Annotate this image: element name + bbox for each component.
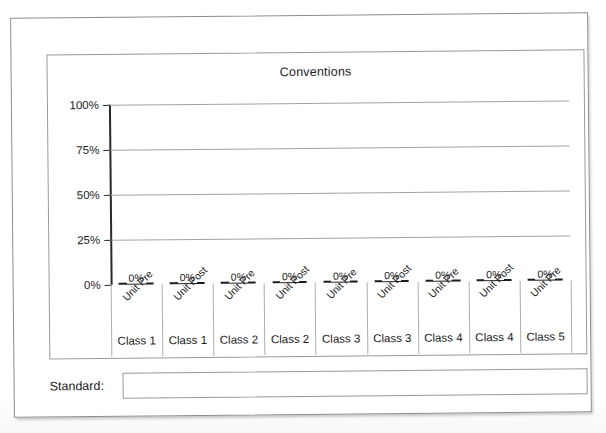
bar-series: 0%0%0%0%0%0%0%0%0% — [109, 100, 571, 284]
category-divider — [417, 282, 419, 354]
class-axis-label: Class 1 — [117, 334, 155, 346]
y-axis-label: 0% — [84, 279, 101, 291]
category-divider — [111, 285, 113, 357]
class-axis-label: Class 3 — [322, 332, 360, 344]
category-divider — [520, 281, 522, 353]
class-axis-label: Class 2 — [271, 333, 309, 345]
category-divider — [366, 282, 368, 354]
category-divider — [468, 281, 470, 353]
y-axis-label: 25% — [77, 234, 100, 246]
category-divider — [571, 280, 573, 352]
category-divider — [213, 284, 215, 356]
class-axis-label: Class 1 — [169, 334, 207, 346]
y-axis-label: 50% — [77, 189, 100, 201]
class-axis-label: Class 5 — [526, 330, 564, 342]
category-divider — [162, 284, 164, 356]
category-divider — [315, 283, 317, 355]
standard-label: Standard: — [50, 379, 104, 394]
chart-panel: Conventions 0%25%50%75%100% 0%0%0%0%0%0%… — [46, 49, 587, 359]
standard-input[interactable] — [122, 368, 587, 398]
category-axis: Unit PreClass 1Unit PostClass 1Unit PreC… — [111, 280, 572, 358]
class-axis-label: Class 3 — [373, 332, 411, 344]
class-axis-label: Class 4 — [424, 331, 462, 343]
plot-area: 0%25%50%75%100% 0%0%0%0%0%0%0%0%0% — [109, 100, 571, 284]
report-outer-frame: Conventions 0%25%50%75%100% 0%0%0%0%0%0%… — [10, 12, 592, 418]
scanned-page: Conventions 0%25%50%75%100% 0%0%0%0%0%0%… — [0, 0, 606, 433]
y-axis-label: 100% — [69, 99, 99, 111]
standard-row: Standard: — [49, 368, 587, 403]
y-axis-label: 75% — [76, 144, 99, 156]
chart-title: Conventions — [48, 62, 584, 81]
category-divider — [264, 283, 266, 355]
class-axis-label: Class 4 — [475, 331, 513, 343]
class-axis-label: Class 2 — [220, 333, 258, 345]
